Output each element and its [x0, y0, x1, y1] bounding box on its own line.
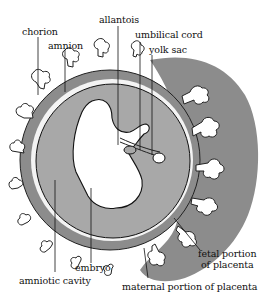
label-fetal-portion-line1: fetal portion [198, 248, 256, 259]
yolk-sac [153, 153, 165, 163]
label-fetal-portion-line2: of placenta [198, 259, 256, 270]
label-umbilical-cord: umbilical cord [135, 29, 203, 40]
label-chorion: chorion [22, 26, 58, 37]
label-amniotic-cavity: amniotic cavity [19, 275, 91, 286]
allantois [124, 146, 136, 154]
label-amnion: amnion [48, 40, 83, 51]
label-maternal-portion: maternal portion of placenta [122, 281, 257, 292]
label-embryo: embryo [75, 262, 111, 273]
label-yolk-sac: yolk sac [149, 44, 187, 55]
label-fetal-portion: fetal portion of placenta [198, 248, 256, 270]
label-allantois: allantois [99, 14, 139, 25]
